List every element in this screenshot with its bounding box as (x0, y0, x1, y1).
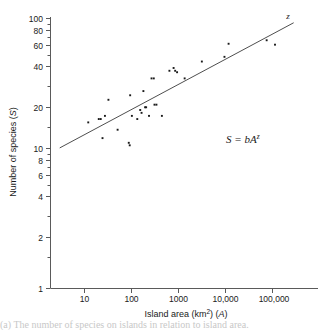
data-point (136, 118, 138, 120)
data-point (117, 129, 119, 131)
data-point (168, 70, 170, 72)
y-tick-label-60: 60 (34, 41, 44, 51)
y-tick-label-2: 2 (38, 233, 43, 243)
data-point (154, 104, 156, 106)
y-tick-label-6: 6 (38, 171, 43, 181)
data-point (224, 56, 226, 58)
data-point (155, 104, 157, 106)
x-axis-ticks (85, 289, 273, 294)
data-point (131, 115, 133, 117)
y-tick-label-100: 100 (29, 14, 43, 24)
data-point (201, 61, 203, 63)
y-tick-label-80: 80 (34, 26, 44, 36)
data-point (161, 115, 163, 117)
x-tick-label-1000: 1000 (169, 294, 188, 304)
data-point (104, 115, 106, 117)
data-point (107, 99, 109, 101)
data-point (98, 118, 100, 120)
y-tick-label-10: 10 (34, 144, 44, 154)
x-tick-label-100000: 100,000 (259, 294, 290, 304)
data-point (142, 90, 144, 92)
data-point (139, 109, 141, 111)
species-area-figure: 100 80 60 40 20 10 8 6 4 2 1 10 100 1000… (0, 0, 325, 330)
x-tick-label-10000: 10,000 (213, 294, 239, 304)
data-point (87, 121, 89, 123)
data-point (141, 112, 143, 114)
data-point (228, 43, 230, 45)
data-point (174, 70, 176, 72)
figure-caption-fragment: (a) The number of species on islands in … (0, 319, 325, 330)
data-point (266, 39, 268, 41)
y-tick-label-8: 8 (38, 156, 43, 166)
data-point (153, 77, 155, 79)
data-point (129, 94, 131, 96)
data-point (102, 137, 104, 139)
y-tick-label-20: 20 (34, 103, 44, 113)
x-tick-label-100: 100 (124, 294, 138, 304)
data-point (274, 44, 276, 46)
fit-line-z-label: z (285, 11, 290, 21)
y-axis-title: Number of species (S) (8, 107, 18, 197)
y-tick-label-1: 1 (38, 284, 43, 294)
data-point (145, 106, 147, 108)
chart-canvas: 100 80 60 40 20 10 8 6 4 2 1 10 100 1000… (0, 0, 325, 330)
y-axis-ticks (46, 19, 51, 289)
data-point (173, 67, 175, 69)
x-tick-label-10: 10 (80, 294, 90, 304)
regression-fit-line (60, 23, 294, 148)
data-point (148, 115, 150, 117)
y-tick-label-4: 4 (38, 192, 43, 202)
data-point (129, 144, 131, 146)
data-point (128, 142, 130, 144)
data-point (184, 77, 186, 79)
data-point (151, 77, 153, 79)
data-point (100, 118, 102, 120)
scatter-points-group (87, 39, 276, 146)
x-axis-title: Island area (km2) (A) (144, 308, 227, 319)
y-tick-label-40: 40 (34, 62, 44, 72)
data-point (176, 71, 178, 73)
equation-annotation: S = bAz (226, 132, 260, 145)
